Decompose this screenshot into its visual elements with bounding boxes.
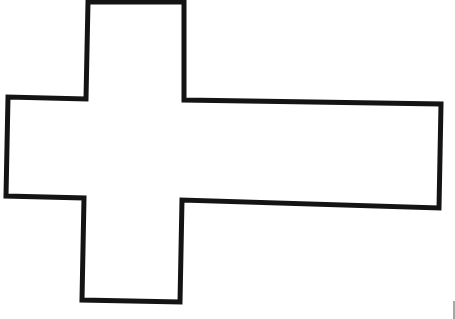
cross-shape-outline (6, 2, 441, 302)
diagram-canvas (0, 0, 455, 319)
